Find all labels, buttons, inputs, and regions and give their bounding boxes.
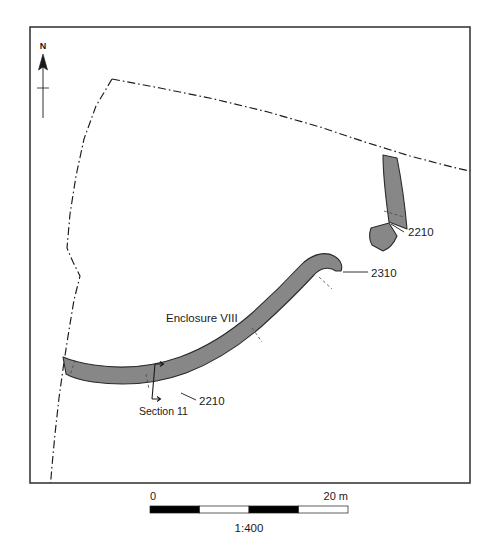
north-arrow-label: N [40,41,47,51]
scale-segment-4 [299,506,349,513]
scale-end-label: 20 m [324,490,348,502]
site-plan-page: N Enclosure VIII 2210 2310 2210 Section … [0,0,493,556]
context-label-middle: 2310 [371,267,397,279]
context-label-upper: 2210 [408,226,434,238]
enclosure-name-label: Enclosure VIII [166,312,238,324]
scale-ratio-label: 1:400 [235,522,264,534]
section-label: Section 11 [139,405,188,417]
scale-segment-1 [150,506,200,513]
figure-background [0,0,493,556]
site-plan-figure: N Enclosure VIII 2210 2310 2210 Section … [0,0,493,556]
scale-segment-2 [200,506,250,513]
scale-start-label: 0 [150,490,156,502]
context-label-lower: 2210 [199,395,225,407]
scale-segment-3 [249,506,299,513]
